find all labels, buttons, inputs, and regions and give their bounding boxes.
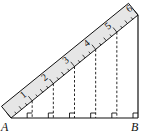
ruler-triangle-diagram: 123456 A B [0,0,142,134]
ruler [2,3,139,118]
point-label-A: A [0,120,9,134]
point-label-B: B [131,120,139,134]
right-angle-marks [27,113,138,118]
